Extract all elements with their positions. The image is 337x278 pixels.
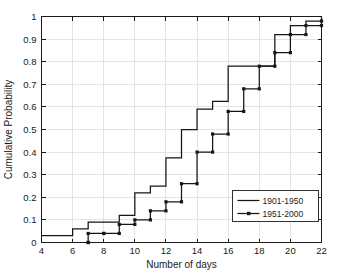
series-marker-point — [164, 209, 167, 212]
series-marker-point — [118, 223, 121, 226]
x-tick-label: 12 — [161, 245, 172, 256]
y-tick-label: 0.2 — [23, 192, 36, 203]
series-marker-point — [227, 132, 230, 135]
series-marker-point — [242, 110, 245, 113]
x-tick-label: 14 — [192, 245, 203, 256]
x-tick-label: 22 — [316, 245, 327, 256]
y-tick-label: 0.3 — [23, 169, 36, 180]
figure-container: 4681012141618202200.10.20.30.40.50.60.70… — [0, 0, 337, 278]
y-tick-label: 1 — [31, 11, 36, 22]
series-marker-point — [133, 223, 136, 226]
y-tick-label: 0.9 — [23, 34, 36, 45]
y-tick-label: 0.8 — [23, 56, 36, 67]
series-marker-point — [242, 87, 245, 90]
series-marker-point — [227, 110, 230, 113]
series-marker-point — [87, 232, 90, 235]
series-marker-point — [273, 65, 276, 68]
series-marker-point — [133, 218, 136, 221]
cumulative-probability-chart: 4681012141618202200.10.20.30.40.50.60.70… — [0, 0, 337, 278]
y-tick-label: 0.5 — [23, 124, 36, 135]
legend-label-2: 1951-2000 — [263, 209, 304, 219]
x-tick-label: 20 — [285, 245, 296, 256]
series-marker-point — [211, 151, 214, 154]
series-marker-point — [149, 209, 152, 212]
x-tick-label: 6 — [70, 245, 75, 256]
series-marker-point — [258, 65, 261, 68]
legend-marker-sample-2 — [247, 212, 250, 215]
x-tick-label: 18 — [254, 245, 265, 256]
x-tick-label: 16 — [223, 245, 234, 256]
series-marker-point — [289, 33, 292, 36]
y-tick-label: 0 — [31, 237, 36, 248]
series-marker-point — [180, 200, 183, 203]
series-marker-point — [118, 232, 121, 235]
series-marker-point — [102, 232, 105, 235]
series-marker-point — [195, 151, 198, 154]
series-marker-point — [211, 132, 214, 135]
series-marker-point — [289, 51, 292, 54]
y-axis-title: Cumulative Probability — [3, 80, 14, 180]
x-tick-label: 10 — [130, 245, 141, 256]
y-tick-label: 0.1 — [23, 214, 36, 225]
series-marker-point — [180, 182, 183, 185]
series-marker-point — [258, 87, 261, 90]
y-tick-label: 0.7 — [23, 79, 36, 90]
series-marker-point — [149, 218, 152, 221]
series-marker-point — [304, 24, 307, 27]
series-marker-point — [273, 51, 276, 54]
x-tick-label: 4 — [39, 245, 44, 256]
x-tick-label: 8 — [101, 245, 106, 256]
series-marker-point — [195, 182, 198, 185]
series-marker-point — [164, 200, 167, 203]
legend-label-1: 1901-1950 — [263, 196, 304, 206]
series-marker-point — [304, 33, 307, 36]
x-axis-title: Number of days — [146, 259, 217, 270]
y-tick-label: 0.6 — [23, 101, 36, 112]
y-tick-label: 0.4 — [23, 147, 36, 158]
